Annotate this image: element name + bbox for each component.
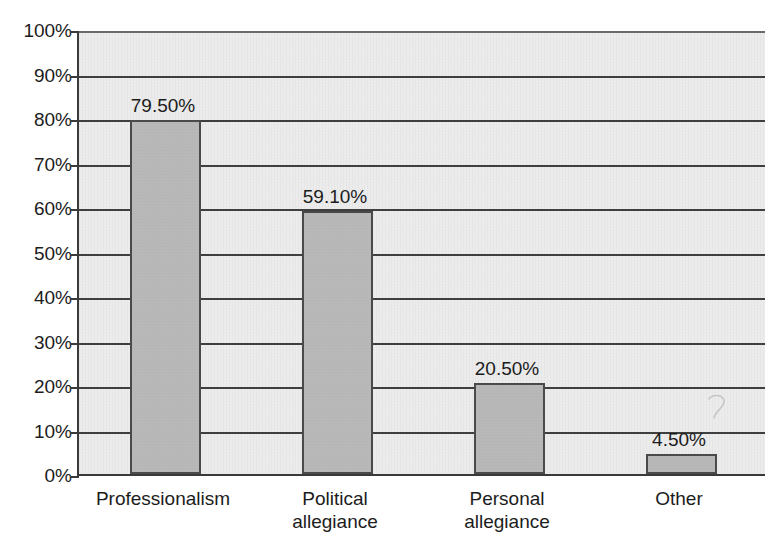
x-tick-label-3: Personal allegiance: [421, 487, 593, 533]
bar-1: [130, 120, 201, 474]
y-tick-mark-50%: [70, 254, 79, 256]
bar-3: [474, 383, 545, 474]
y-tick-label-0%: 0%: [2, 466, 72, 485]
x-tick-label-4: Other: [593, 487, 765, 510]
x-tick-label-1: Professionalism: [77, 487, 249, 510]
y-tick-label-70%: 70%: [2, 155, 72, 174]
y-tick-mark-30%: [70, 343, 79, 345]
y-tick-label-60%: 60%: [2, 199, 72, 218]
bar-chart: 0%10%20%30%40%50%60%70%80%90%100% 79.50%…: [0, 0, 784, 559]
bar-value-label-2: 59.10%: [249, 187, 421, 206]
y-tick-mark-100%: [70, 31, 79, 33]
y-tick-label-30%: 30%: [2, 333, 72, 352]
gridline-90%: [79, 76, 765, 78]
bar-2: [302, 211, 373, 474]
y-tick-mark-80%: [70, 120, 79, 122]
y-tick-mark-40%: [70, 298, 79, 300]
y-tick-mark-90%: [70, 76, 79, 78]
y-tick-mark-10%: [70, 432, 79, 434]
y-tick-label-20%: 20%: [2, 377, 72, 396]
y-tick-label-80%: 80%: [2, 110, 72, 129]
gridline-100%: [79, 31, 765, 33]
bar-value-label-3: 20.50%: [421, 359, 593, 378]
y-tick-label-90%: 90%: [2, 66, 72, 85]
y-tick-label-40%: 40%: [2, 288, 72, 307]
x-tick-label-2: Political allegiance: [249, 487, 421, 533]
bar-value-label-4: 4.50%: [593, 430, 765, 449]
bar-value-label-1: 79.50%: [77, 96, 249, 115]
y-tick-mark-60%: [70, 209, 79, 211]
y-tick-label-50%: 50%: [2, 244, 72, 263]
y-tick-mark-20%: [70, 387, 79, 389]
y-tick-mark-0%: [70, 476, 79, 478]
y-tick-mark-70%: [70, 165, 79, 167]
y-tick-label-10%: 10%: [2, 422, 72, 441]
y-tick-label-100%: 100%: [2, 21, 72, 40]
bar-4: [646, 454, 717, 474]
